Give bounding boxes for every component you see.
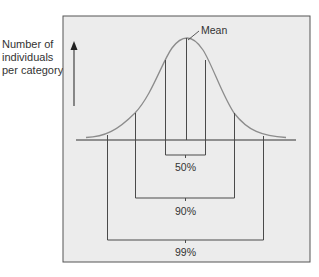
interval-90-label: 90% (175, 205, 196, 217)
mean-label: Mean (201, 24, 227, 36)
normal-distribution-diagram: Mean 50% 90% 99% (0, 0, 319, 277)
interval-50-label: 50% (175, 161, 196, 173)
interval-99-label: 99% (175, 246, 196, 258)
